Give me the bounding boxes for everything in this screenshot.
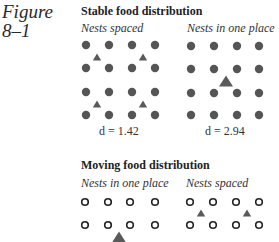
nest-open-icon [187, 199, 194, 206]
nest-filled-icon [151, 41, 159, 49]
nest-filled-icon [255, 65, 263, 73]
nest-open-icon [256, 199, 263, 206]
nest-filled-icon [82, 64, 90, 72]
nest-open-icon [233, 199, 240, 206]
nest-filled-icon [82, 41, 90, 49]
nest-open-icon [127, 199, 134, 206]
nest-open-icon [187, 222, 194, 229]
nest-filled-icon [233, 89, 241, 97]
nest-open-icon [127, 222, 134, 229]
nest-open-icon [210, 199, 217, 206]
nest-open-icon [105, 222, 112, 229]
nest-filled-icon [128, 41, 136, 49]
moving-right-panel [187, 199, 263, 229]
nest-filled-icon [233, 111, 241, 119]
nest-filled-icon [82, 88, 90, 96]
nest-filled-icon [233, 42, 241, 50]
nest-filled-icon [210, 111, 218, 119]
nest-filled-icon [128, 88, 136, 96]
food-small-triangle-icon [197, 210, 205, 217]
nest-filled-icon [187, 42, 195, 50]
nest-filled-icon [187, 111, 195, 119]
stable-left-panel [82, 41, 159, 119]
nest-filled-icon [255, 42, 263, 50]
nest-filled-icon [105, 88, 113, 96]
nest-open-icon [82, 199, 89, 206]
nest-open-icon [82, 222, 89, 229]
nest-open-icon [105, 199, 112, 206]
nest-filled-icon [151, 111, 159, 119]
nest-filled-icon [82, 111, 90, 119]
nest-open-icon [210, 222, 217, 229]
nest-open-icon [152, 222, 159, 229]
nest-open-icon [256, 222, 263, 229]
moving-left-panel [82, 199, 159, 242]
food-small-triangle-icon [139, 101, 147, 108]
nest-filled-icon [151, 88, 159, 96]
nest-open-icon [152, 199, 159, 206]
nest-filled-icon [210, 89, 218, 97]
nest-filled-icon [151, 64, 159, 72]
nest-filled-icon [210, 42, 218, 50]
nest-filled-icon [255, 111, 263, 119]
food-small-triangle-icon [139, 54, 147, 61]
stable-right-panel [187, 42, 263, 119]
diagram-canvas [0, 0, 279, 242]
food-small-triangle-icon [93, 54, 101, 61]
food-large-triangle-icon [112, 232, 126, 242]
food-small-triangle-icon [93, 101, 101, 108]
food-large-triangle-icon [219, 76, 233, 87]
nest-filled-icon [105, 111, 113, 119]
nest-filled-icon [255, 89, 263, 97]
nest-filled-icon [233, 65, 241, 73]
nest-open-icon [233, 222, 240, 229]
nest-filled-icon [105, 64, 113, 72]
nest-filled-icon [128, 111, 136, 119]
nest-filled-icon [210, 65, 218, 73]
nest-filled-icon [105, 41, 113, 49]
food-small-triangle-icon [243, 210, 251, 217]
nest-filled-icon [128, 64, 136, 72]
nest-filled-icon [187, 89, 195, 97]
nest-filled-icon [187, 65, 195, 73]
